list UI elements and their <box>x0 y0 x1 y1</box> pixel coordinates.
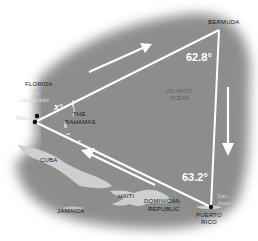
puerto-rico-dot <box>209 205 213 209</box>
angle-miami: x° <box>54 103 63 112</box>
label-rico: RICO <box>201 219 217 225</box>
label-dominican-2: REPUBLIC <box>148 206 180 212</box>
label-san: San <box>217 193 228 199</box>
label-bahamas-1: THE <box>73 111 86 117</box>
label-miami: Miami <box>16 115 32 121</box>
label-jamaica: JAMAICA <box>57 208 84 214</box>
angle-bermuda: 62.8° <box>186 52 212 63</box>
label-bermuda: BERMUDA <box>208 19 239 25</box>
label-lauderdale: Lauderdale <box>19 97 49 103</box>
label-ft: Ft. <box>33 90 40 96</box>
label-florida: FLORIDA <box>25 81 52 87</box>
ft-lauderdale-dot <box>35 114 39 118</box>
label-atlantic-2: OCEAN <box>170 96 189 101</box>
label-atlantic-1: ATLANTIC <box>166 89 192 94</box>
label-bahamas-2: BAHAMAS <box>65 119 96 125</box>
label-cuba: CUBA <box>40 157 57 163</box>
angle-puerto-rico: 63.2° <box>182 172 208 183</box>
label-haiti: HAITI <box>118 193 134 199</box>
label-dominican-1: DOMINICAN <box>144 198 180 204</box>
label-juan: Juan <box>217 200 230 206</box>
label-puerto: PUERTO <box>196 212 222 218</box>
miami-dot <box>33 120 38 125</box>
